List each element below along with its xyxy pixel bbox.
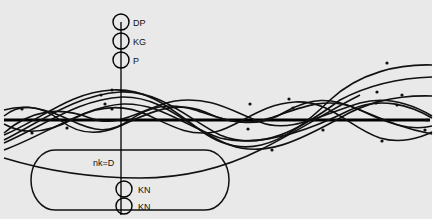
loop-label: nk=D [93, 158, 115, 168]
label-p: P [133, 56, 139, 66]
label-kn-1: KN [138, 185, 151, 195]
background [0, 0, 432, 219]
wave-diagram: DP KG P KN KN nk=D [0, 0, 436, 224]
label-kn-2: KN [138, 202, 151, 212]
label-dp: DP [133, 18, 146, 28]
label-kg: KG [133, 37, 146, 47]
